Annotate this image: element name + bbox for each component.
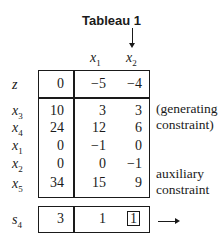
column-header-x2: x2 bbox=[126, 50, 137, 68]
pivot-element: 1 bbox=[127, 211, 140, 226]
cell: 0 bbox=[38, 138, 64, 154]
column-divider bbox=[73, 70, 75, 198]
column-header-x1: x1 bbox=[90, 50, 101, 68]
row-label-x1: x1 bbox=[12, 138, 23, 156]
pivot-cell: 1 bbox=[114, 211, 140, 227]
cell: 15 bbox=[80, 175, 106, 191]
note-line: auxiliary bbox=[156, 166, 209, 182]
cell: 24 bbox=[38, 120, 64, 136]
column-divider bbox=[73, 206, 75, 233]
pivot-column-arrow-icon bbox=[132, 28, 133, 46]
row-label-x3: zx3 bbox=[12, 103, 23, 121]
cell: −4 bbox=[116, 76, 142, 92]
row-label-x2: x2 bbox=[12, 156, 23, 174]
cell: 0 bbox=[38, 156, 64, 172]
row-label-x4: x4 bbox=[12, 120, 23, 138]
cell: 9 bbox=[116, 175, 142, 191]
pivot-row-arrow-icon bbox=[158, 221, 178, 222]
cell: −1 bbox=[116, 156, 142, 172]
cell: 3 bbox=[116, 103, 142, 119]
cell: 10 bbox=[38, 103, 64, 119]
cell: −1 bbox=[80, 138, 106, 154]
row-label-x5: x5 bbox=[12, 176, 23, 194]
row-label-z: z bbox=[12, 77, 17, 93]
generating-constraint-note: (generating constraint) bbox=[156, 101, 217, 133]
cell: 12 bbox=[80, 120, 106, 136]
cell: 0 bbox=[80, 156, 106, 172]
note-line: (generating bbox=[156, 101, 217, 117]
cell: 6 bbox=[116, 120, 142, 136]
cell: 3 bbox=[38, 211, 64, 227]
tableau-title: Tableau 1 bbox=[82, 13, 141, 28]
auxiliary-constraint-note: auxiliary constraint bbox=[156, 166, 209, 198]
objective-row-divider bbox=[38, 97, 150, 99]
cell: 34 bbox=[38, 175, 64, 191]
note-line: constraint) bbox=[156, 117, 217, 133]
cell: −5 bbox=[80, 76, 106, 92]
cell: 3 bbox=[80, 103, 106, 119]
cell: 1 bbox=[80, 211, 106, 227]
cell: 0 bbox=[116, 138, 142, 154]
note-line: constraint bbox=[156, 182, 209, 198]
cell: 0 bbox=[38, 76, 64, 92]
row-label-s4: s4 bbox=[12, 212, 22, 230]
